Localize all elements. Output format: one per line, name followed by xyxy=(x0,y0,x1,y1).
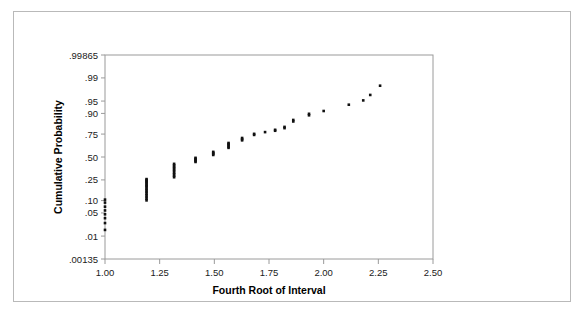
data-point xyxy=(104,217,107,220)
data-point xyxy=(104,205,107,208)
y-tick-label: .05 xyxy=(85,207,98,218)
y-tick-label: .99 xyxy=(85,72,98,83)
data-point xyxy=(283,127,286,130)
plot-svg: .99865.99.95.90.75.50.25.10.05.01.00135 … xyxy=(0,0,586,320)
data-point xyxy=(322,110,325,113)
data-points xyxy=(104,84,382,231)
x-axis-ticks: 1.001.251.501.752.002.252.50 xyxy=(96,259,443,278)
data-point xyxy=(292,120,295,123)
data-point xyxy=(145,199,148,202)
y-tick-label: .95 xyxy=(85,96,98,107)
y-axis-ticks: .99865.99.95.90.75.50.25.10.05.01.00135 xyxy=(69,50,105,265)
x-tick-label: 2.50 xyxy=(424,267,443,278)
data-point xyxy=(227,147,230,150)
data-point xyxy=(264,131,267,134)
data-point xyxy=(173,176,176,179)
probability-plot: .99865.99.95.90.75.50.25.10.05.01.00135 … xyxy=(0,0,586,320)
data-point xyxy=(308,114,311,117)
data-point xyxy=(212,154,215,157)
x-tick-label: 2.00 xyxy=(314,267,333,278)
y-tick-label: .01 xyxy=(85,231,98,242)
data-point xyxy=(362,99,365,102)
x-tick-label: 1.00 xyxy=(96,267,115,278)
y-tick-label: .90 xyxy=(85,108,98,119)
data-point xyxy=(194,161,197,164)
x-tick-label: 2.25 xyxy=(369,267,388,278)
y-tick-label: .25 xyxy=(85,174,98,185)
x-axis-title: Fourth Root of Interval xyxy=(212,284,325,296)
data-point xyxy=(104,209,107,212)
y-tick-label: .99865 xyxy=(69,50,98,61)
y-tick-label: .00135 xyxy=(69,254,98,265)
x-tick-label: 1.75 xyxy=(260,267,279,278)
data-point xyxy=(253,134,256,137)
data-point xyxy=(348,103,351,106)
data-point xyxy=(104,229,107,232)
data-point xyxy=(379,84,382,87)
data-point xyxy=(241,139,244,142)
x-tick-label: 1.25 xyxy=(150,267,169,278)
data-point xyxy=(274,129,277,132)
axes-rectangle xyxy=(105,55,433,259)
y-tick-label: .10 xyxy=(85,195,98,206)
y-tick-label: .50 xyxy=(85,152,98,163)
y-tick-label: .75 xyxy=(85,129,98,140)
data-point xyxy=(104,201,107,204)
data-point xyxy=(369,94,372,97)
data-point xyxy=(104,222,107,225)
data-point xyxy=(104,213,107,216)
x-tick-label: 1.50 xyxy=(205,267,224,278)
y-axis-title: Cumulative Probability xyxy=(52,100,64,214)
plot-frame xyxy=(105,55,433,259)
data-point xyxy=(104,198,107,201)
